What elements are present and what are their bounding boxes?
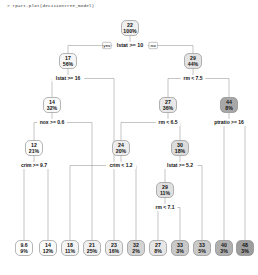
decision-tree-plot: lstat >= 10lstat >= 16rm < 7.5nox >= 0.6… [0, 0, 258, 275]
tree-node-value: 40 [221, 242, 227, 248]
tree-split-label: crim >= 9.7 [21, 162, 47, 168]
tree-node-value: 29 [162, 184, 168, 190]
tree-internal-node: 2420% [113, 141, 130, 156]
tree-leaf-node: 1412% [40, 241, 57, 256]
tree-node-percent: 2% [132, 248, 140, 254]
tree-leaf-node: 2125% [84, 241, 101, 256]
tree-node-percent: 9% [20, 248, 28, 254]
tree-node-value: 14 [45, 242, 51, 248]
tree-node-percent: 8% [154, 248, 162, 254]
tree-node-value: 22 [127, 22, 133, 28]
tree-split-label: nox >= 0.6 [40, 119, 65, 125]
tree-node-percent: 25% [87, 248, 98, 254]
tree-node-percent: 32% [47, 105, 58, 111]
tree-leaf-node: 9.69% [16, 241, 33, 256]
tree-node-value: 9.6 [20, 242, 27, 248]
tree-node-value: 24 [118, 142, 124, 148]
tree-node-percent: 3% [220, 248, 228, 254]
tree-node-value: 27 [155, 242, 161, 248]
tree-split-label: rm < 7.5 [183, 75, 202, 81]
tree-node-value: 27 [165, 99, 171, 105]
tree-node-percent: 3% [241, 248, 249, 254]
tree-node-percent: 8% [225, 105, 233, 111]
tree-leaf-node: 322% [128, 241, 145, 256]
tree-node-percent: 16% [109, 248, 120, 254]
tree-node-value: 44 [226, 99, 232, 105]
tree-split-label: ptratio >= 16 [214, 119, 244, 125]
no-label: no [151, 43, 157, 48]
tree-leaf-node: 278% [150, 241, 167, 256]
tree-node-value: 17 [65, 55, 71, 61]
tree-node-percent: 100% [123, 28, 137, 34]
tree-node-value: 29 [190, 55, 196, 61]
tree-node-value: 33 [199, 242, 205, 248]
tree-internal-node: 448% [221, 98, 238, 113]
tree-split-label: lstat >= 5.2 [167, 162, 193, 168]
tree-node-percent: 44% [188, 61, 199, 67]
tree-node-percent: 12% [43, 248, 54, 254]
tree-internal-node: 22100% [122, 21, 139, 36]
tree-split-label: crim < 1.2 [109, 162, 132, 168]
tree-node-percent: 21% [29, 148, 40, 154]
tree-node-percent: 5% [198, 248, 206, 254]
tree-split-label: rm < 6.5 [158, 119, 177, 125]
tree-node-percent: 56% [63, 61, 74, 67]
tree-leaf-node: 403% [216, 241, 233, 256]
tree-leaf-node: 333% [172, 241, 189, 256]
tree-node-percent: 20% [116, 148, 127, 154]
tree-node-percent: 36% [163, 105, 174, 111]
tree-leaf-node: 2316% [106, 241, 123, 256]
tree-node-value: 33 [177, 242, 183, 248]
tree-internal-node: 2911% [157, 183, 174, 198]
tree-internal-node: 1432% [44, 98, 61, 113]
tree-leaf-node: 335% [194, 241, 211, 256]
tree-node-value: 21 [89, 242, 95, 248]
tree-node-value: 14 [49, 99, 55, 105]
tree-leaf-node: 1811% [62, 241, 79, 256]
tree-node-percent: 11% [65, 248, 75, 254]
tree-node-percent: 18% [175, 148, 186, 154]
tree-internal-node: 1756% [60, 54, 77, 69]
tree-node-percent: 3% [176, 248, 184, 254]
tree-node-value: 32 [133, 242, 139, 248]
tree-leaf-node: 483% [237, 241, 254, 256]
tree-node-percent: 11% [160, 190, 170, 196]
tree-nodes-layer: 22100%1756%2944%1432%2736%448%1221%2420%… [16, 21, 254, 256]
tree-split-labels-layer: lstat >= 10lstat >= 16rm < 7.5nox >= 0.6… [18, 42, 248, 211]
tree-edges-layer [24, 36, 245, 241]
yes-label: yes [103, 43, 111, 48]
tree-node-value: 12 [31, 142, 37, 148]
tree-internal-node: 2736% [160, 98, 177, 113]
tree-node-value: 23 [111, 242, 117, 248]
tree-node-value: 18 [67, 242, 73, 248]
tree-split-label: lstat >= 10 [117, 42, 143, 48]
tree-internal-node: 3018% [172, 141, 189, 156]
tree-split-label: lstat >= 16 [56, 75, 81, 81]
tree-node-value: 48 [242, 242, 248, 248]
tree-split-label: rm < 7.1 [155, 204, 174, 210]
tree-internal-node: 1221% [26, 141, 43, 156]
tree-internal-node: 2944% [185, 54, 202, 69]
tree-node-value: 30 [177, 142, 183, 148]
